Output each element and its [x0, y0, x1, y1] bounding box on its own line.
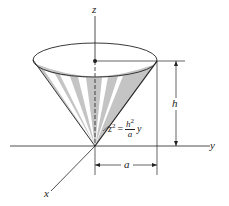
- equation-lhs: z2: [108, 122, 115, 134]
- equation-trailing: y: [137, 123, 141, 134]
- diagram-drawing: [0, 0, 229, 206]
- y-axis-label: y: [210, 140, 215, 151]
- cone-diagram: z y x h a z2 = h2 a y: [0, 0, 229, 206]
- radius-label: a: [124, 159, 130, 170]
- equation-equals: =: [117, 123, 123, 134]
- height-label: h: [172, 98, 178, 109]
- z-axis-label: z: [92, 4, 96, 15]
- equation-fraction: h2 a: [125, 118, 135, 139]
- x-axis: [51, 146, 95, 191]
- x-axis-label: x: [44, 188, 49, 199]
- cone-equation: z2 = h2 a y: [108, 118, 142, 139]
